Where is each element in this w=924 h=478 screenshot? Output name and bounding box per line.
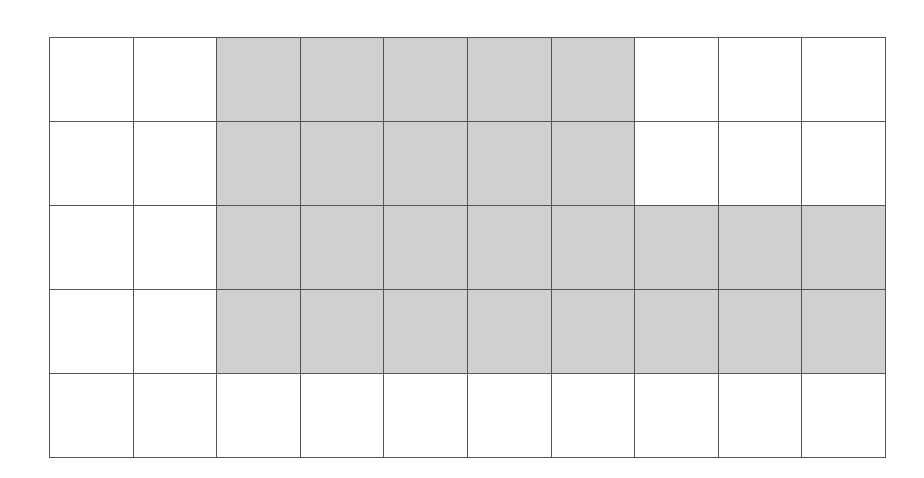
shaded-cell bbox=[552, 122, 636, 206]
shaded-cell bbox=[301, 290, 385, 374]
shaded-cell bbox=[384, 122, 468, 206]
empty-cell bbox=[719, 38, 803, 122]
shaded-cell bbox=[384, 290, 468, 374]
empty-cell bbox=[134, 206, 218, 290]
empty-cell bbox=[134, 122, 218, 206]
shaded-cell bbox=[635, 290, 719, 374]
empty-cell bbox=[719, 374, 803, 458]
shaded-cell bbox=[802, 290, 886, 374]
shaded-cell bbox=[802, 206, 886, 290]
empty-cell bbox=[134, 38, 218, 122]
empty-cell bbox=[635, 38, 719, 122]
shaded-cell bbox=[719, 206, 803, 290]
empty-cell bbox=[552, 374, 636, 458]
shaded-cell bbox=[468, 290, 552, 374]
shaded-cell bbox=[217, 38, 301, 122]
shaded-cell bbox=[635, 206, 719, 290]
shaded-cell bbox=[301, 122, 385, 206]
shaded-cell bbox=[719, 290, 803, 374]
shaded-cell bbox=[552, 38, 636, 122]
empty-cell bbox=[802, 374, 886, 458]
empty-cell bbox=[719, 122, 803, 206]
empty-cell bbox=[134, 374, 218, 458]
empty-cell bbox=[50, 206, 134, 290]
empty-cell bbox=[384, 374, 468, 458]
shaded-cell bbox=[468, 206, 552, 290]
empty-cell bbox=[802, 122, 886, 206]
empty-cell bbox=[468, 374, 552, 458]
empty-cell bbox=[50, 290, 134, 374]
empty-cell bbox=[50, 38, 134, 122]
shaded-cell bbox=[301, 206, 385, 290]
shaded-cell bbox=[301, 38, 385, 122]
empty-cell bbox=[635, 374, 719, 458]
shaded-cell bbox=[468, 38, 552, 122]
shaded-cell bbox=[217, 290, 301, 374]
empty-cell bbox=[802, 38, 886, 122]
empty-cell bbox=[635, 122, 719, 206]
empty-cell bbox=[50, 122, 134, 206]
shaded-cell bbox=[384, 206, 468, 290]
shaded-cell bbox=[217, 206, 301, 290]
shaded-cell bbox=[468, 122, 552, 206]
empty-cell bbox=[134, 290, 218, 374]
shaded-cell bbox=[552, 290, 636, 374]
unit-grid bbox=[49, 37, 886, 458]
empty-cell bbox=[217, 374, 301, 458]
shaded-cell bbox=[384, 38, 468, 122]
empty-cell bbox=[50, 374, 134, 458]
empty-cell bbox=[301, 374, 385, 458]
shaded-cell bbox=[217, 122, 301, 206]
shaded-cell bbox=[552, 206, 636, 290]
